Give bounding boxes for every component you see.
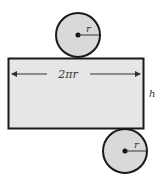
bottom-circle: r bbox=[103, 129, 147, 173]
cylinder-net-diagram: r 2πr h r bbox=[0, 0, 161, 185]
lateral-rectangle: 2πr h bbox=[9, 59, 156, 129]
top-circle: r bbox=[56, 13, 100, 57]
height-label: h bbox=[149, 88, 155, 99]
width-label: 2πr bbox=[57, 68, 78, 81]
